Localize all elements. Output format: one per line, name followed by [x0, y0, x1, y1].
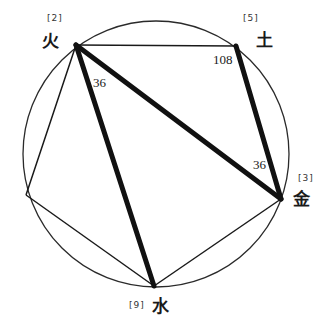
edge-fire-metal — [76, 45, 281, 199]
angle-fire: 36 — [93, 76, 106, 89]
angle-earth: 108 — [213, 53, 233, 66]
earth-label: 土 — [256, 32, 273, 49]
earth-tag: [5] — [243, 14, 259, 23]
water-label: 水 — [152, 298, 169, 315]
outer-circle — [23, 21, 289, 287]
edge-water-left — [26, 195, 154, 286]
metal-label: 金 — [293, 191, 310, 208]
metal-tag: [3] — [298, 174, 314, 183]
edge-metal-water — [154, 199, 281, 286]
angle-metal: 36 — [253, 158, 266, 171]
edge-fire-earth — [76, 45, 236, 46]
edge-left-fire — [26, 45, 76, 195]
fire-tag: [2] — [47, 14, 63, 23]
water-tag: [9] — [129, 301, 145, 310]
fire-label: 火 — [42, 33, 59, 50]
edge-fire-water — [76, 45, 154, 286]
